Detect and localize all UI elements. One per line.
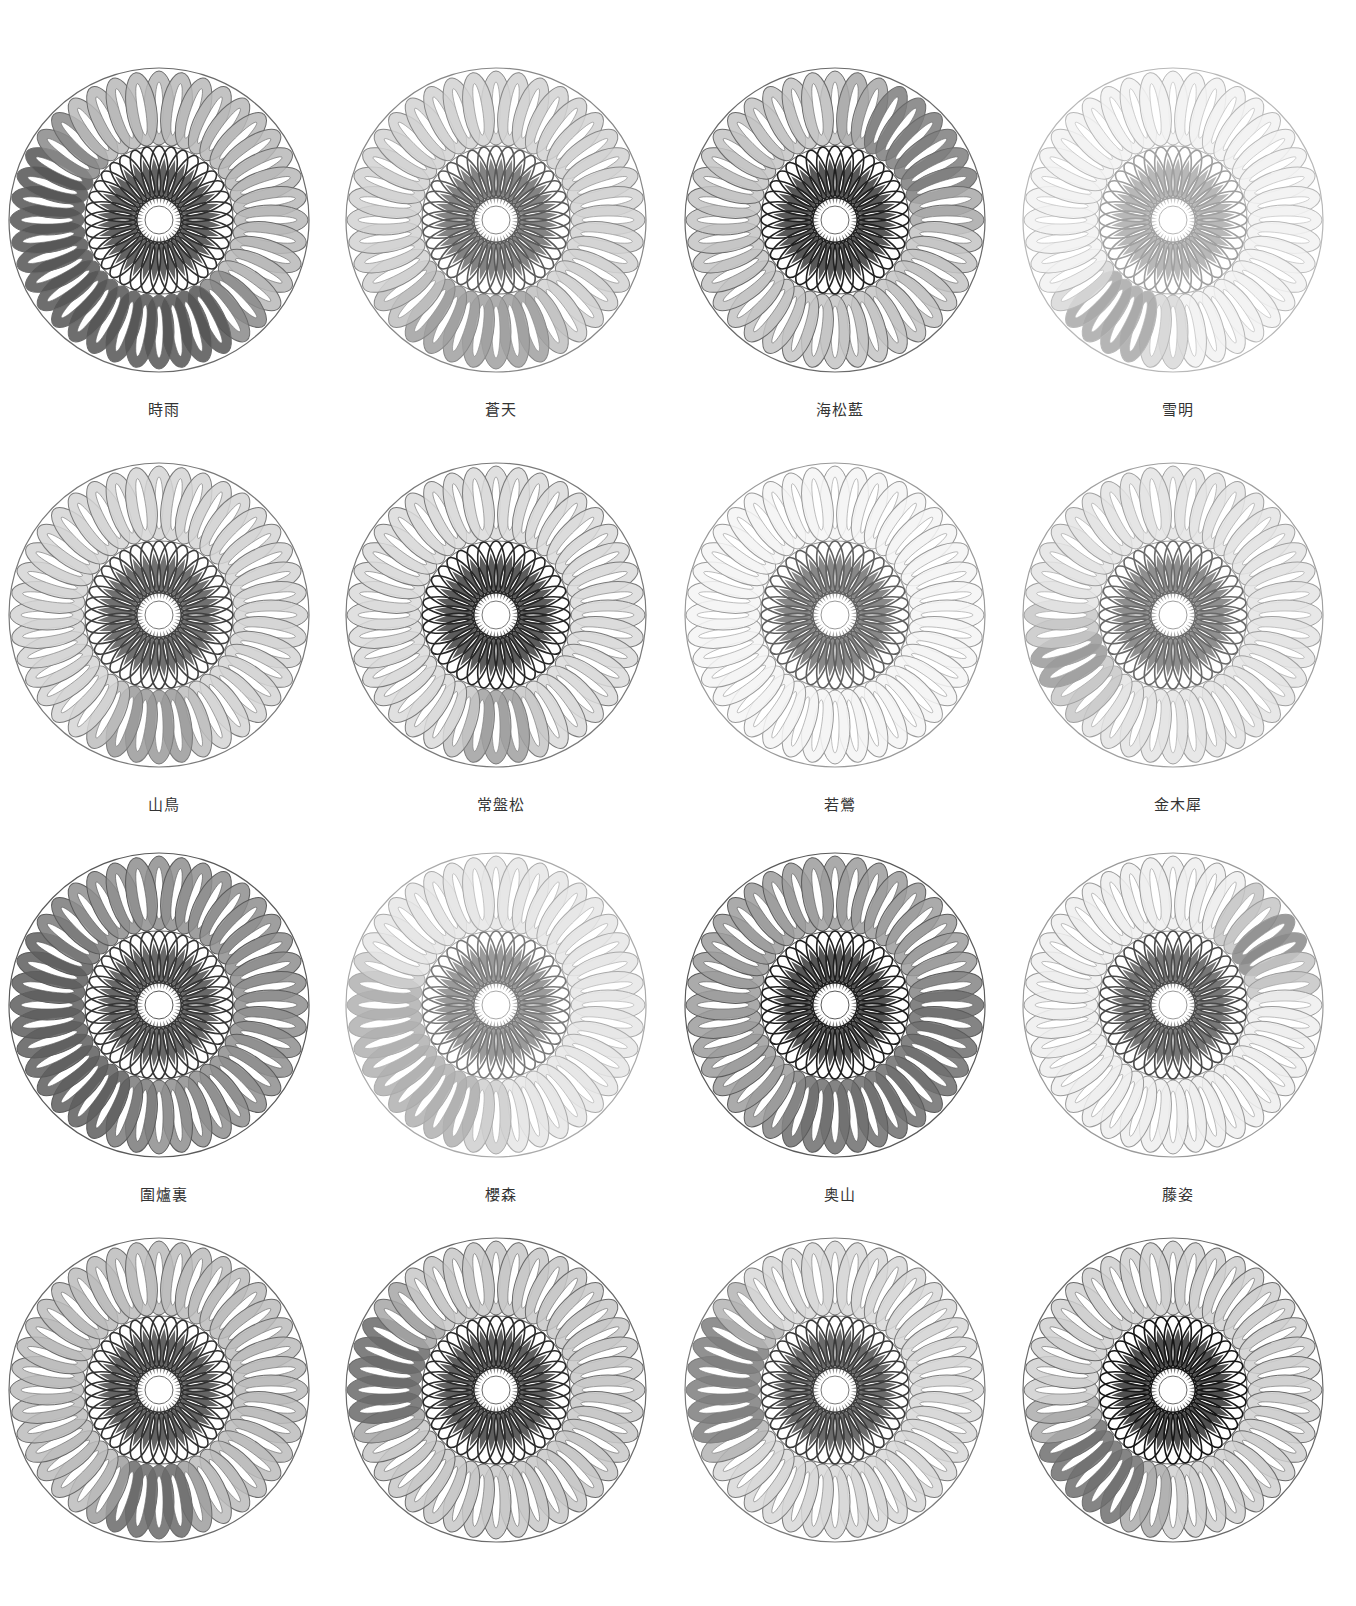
rosette-swatch-image — [341, 1230, 651, 1550]
rosette-swatch-image — [1018, 455, 1328, 775]
rosette-swatch-image — [680, 60, 990, 380]
swatch-grid: 時雨 — [0, 0, 1356, 1606]
swatch-label: 時雨 — [4, 398, 324, 419]
rosette-swatch-image — [1018, 60, 1328, 380]
rosette-swatch-image — [680, 455, 990, 775]
rosette-swatch-image — [680, 1230, 990, 1550]
swatch-label: 圍爐裏 — [4, 1183, 324, 1204]
swatch-label: 若鶯 — [680, 793, 1000, 814]
swatch-label: 雪明 — [1018, 398, 1338, 419]
rosette-swatch-image — [341, 60, 651, 380]
rosette-swatch-image — [4, 455, 314, 775]
swatch-label: 奥山 — [680, 1183, 1000, 1204]
rosette-swatch-image — [341, 455, 651, 775]
swatch-label: 海松藍 — [680, 398, 1000, 419]
rosette-swatch-image — [4, 60, 314, 380]
rosette-swatch-image — [680, 845, 990, 1165]
rosette-swatch-image — [341, 845, 651, 1165]
rosette-swatch-image — [4, 845, 314, 1165]
swatch-label: 櫻森 — [341, 1183, 661, 1204]
rosette-swatch-image — [1018, 1230, 1328, 1550]
rosette-swatch-image — [1018, 845, 1328, 1165]
swatch-label: 常盤松 — [341, 793, 661, 814]
swatch-label: 山鳥 — [4, 793, 324, 814]
swatch-label: 藤姿 — [1018, 1183, 1338, 1204]
swatch-label: 蒼天 — [341, 398, 661, 419]
swatch-label: 金木犀 — [1018, 793, 1338, 814]
rosette-swatch-image — [4, 1230, 314, 1550]
